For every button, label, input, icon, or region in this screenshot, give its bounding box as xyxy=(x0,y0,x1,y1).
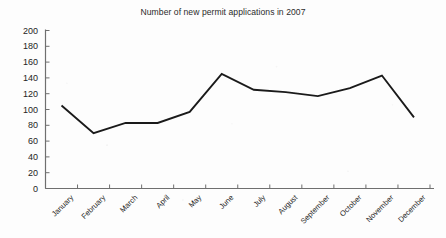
y-axis-tick-label: 140 xyxy=(12,73,38,83)
y-axis-tick-label: 180 xyxy=(12,41,38,51)
y-axis-tick-label: 120 xyxy=(12,89,38,99)
y-axis-tick-label: 100 xyxy=(12,105,38,115)
chart-page: Number of new permit applications in 200… xyxy=(0,0,446,238)
y-axis-tick-label: 20 xyxy=(12,168,38,178)
y-axis-tick-label: 40 xyxy=(12,152,38,162)
y-axis-tick-label: 0 xyxy=(12,184,38,194)
y-axis-tick-label: 160 xyxy=(12,57,38,67)
data-series-line xyxy=(62,74,414,133)
y-axis-tick-label: 80 xyxy=(12,120,38,130)
y-axis-tick-label: 200 xyxy=(12,26,38,36)
y-axis-tick-label: 60 xyxy=(12,136,38,146)
